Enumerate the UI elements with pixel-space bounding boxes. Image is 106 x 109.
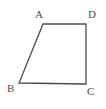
vertex-label-d: D [88, 9, 96, 20]
vertex-label-c: C [87, 86, 94, 97]
vertex-label-b: B [7, 83, 14, 94]
figure-container: A D C B [0, 0, 106, 109]
vertex-label-a: A [35, 9, 43, 20]
quadrilateral-abcd-outline [19, 24, 86, 84]
